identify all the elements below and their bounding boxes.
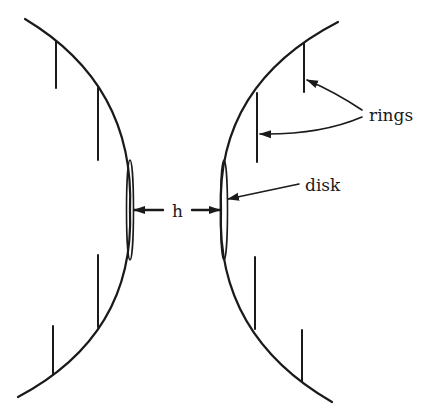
right-surface	[221, 22, 339, 402]
disk-label: disk	[305, 175, 341, 195]
gap-diagram: h rings disk	[0, 0, 436, 419]
gap-label: h	[172, 201, 183, 221]
disk-callout: disk	[228, 175, 341, 199]
rings-upper-arrow-icon	[307, 80, 362, 110]
left-surface	[18, 19, 134, 397]
rings-callout: rings	[260, 80, 413, 134]
rings-label: rings	[369, 105, 413, 125]
rings-lower-arrow-icon	[260, 117, 362, 134]
gap-indicator: h	[134, 201, 220, 221]
left-surface-curve	[18, 19, 130, 397]
right-surface-curve	[221, 22, 338, 402]
disk-arrow-icon	[228, 184, 299, 199]
